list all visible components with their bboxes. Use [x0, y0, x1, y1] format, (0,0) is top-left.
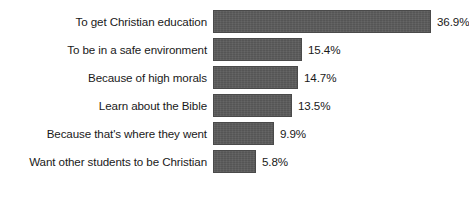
category-label: Because that's where they went: [0, 122, 207, 145]
bar-row: Learn about the Bible 13.5%: [0, 94, 467, 117]
category-label: Want other students to be Christian: [0, 150, 207, 173]
bar-value-label: 5.8%: [262, 150, 288, 173]
bar-value-label: 13.5%: [298, 94, 330, 117]
bar: [213, 38, 302, 61]
bar: [213, 150, 256, 173]
bar-row: To get Christian education 36.9%: [0, 10, 467, 33]
bar: [213, 66, 298, 89]
category-label: To get Christian education: [0, 10, 207, 33]
bar-row: Because of high morals 14.7%: [0, 66, 467, 89]
bar: [213, 10, 431, 33]
bar-value-label: 15.4%: [308, 38, 340, 61]
bar-value-label: 36.9%: [437, 10, 469, 33]
category-label: Learn about the Bible: [0, 94, 207, 117]
category-label: Because of high morals: [0, 66, 207, 89]
bar-row: To be in a safe environment 15.4%: [0, 38, 467, 61]
bar-row: Want other students to be Christian 5.8%: [0, 150, 467, 173]
bar: [213, 94, 292, 117]
bar-value-label: 9.9%: [280, 122, 306, 145]
bar-row: Because that's where they went 9.9%: [0, 122, 467, 145]
category-label: To be in a safe environment: [0, 38, 207, 61]
bar: [213, 122, 274, 145]
bar-value-label: 14.7%: [304, 66, 336, 89]
